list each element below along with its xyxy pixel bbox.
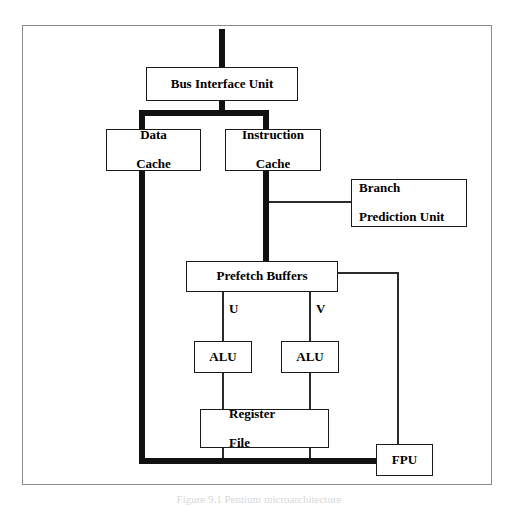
branch-prediction-unit-label-line1: Branch [359, 181, 466, 196]
figure-canvas: Bus Interface Unit Data Cache Instructio… [0, 0, 518, 506]
node-branch-prediction-unit[interactable]: Branch Prediction Unit [351, 179, 467, 227]
pipe-label-u: U [229, 301, 238, 317]
instruction-cache-label-line2: Cache [226, 157, 320, 172]
bus-top-stub [219, 29, 225, 71]
node-instruction-cache[interactable]: Instruction Cache [225, 129, 321, 171]
figure-frame: Bus Interface Unit Data Cache Instructio… [22, 25, 492, 485]
node-alu-v[interactable]: ALU [281, 341, 339, 373]
register-file-label-line2: File [229, 436, 328, 451]
wire-prefetch-to-fpu-vertical [397, 272, 399, 444]
bus-bottom-horizontal [139, 458, 379, 464]
wire-branch-prediction [267, 201, 351, 203]
bus-icache-to-prefetch [263, 170, 269, 262]
node-bus-interface-unit[interactable]: Bus Interface Unit [146, 67, 298, 101]
bus-dcache-left-vertical [139, 170, 145, 464]
node-alu-u[interactable]: ALU [194, 341, 252, 373]
register-file-label-line1: Register [229, 407, 328, 422]
instruction-cache-label-line1: Instruction [226, 128, 320, 143]
figure-caption: Figure 9.1 Pentium microarchitecture [0, 493, 518, 505]
wire-alu-u-to-register-file [222, 373, 224, 409]
bus-cache-split-horizontal [139, 110, 269, 116]
node-fpu[interactable]: FPU [376, 444, 433, 476]
node-data-cache[interactable]: Data Cache [106, 129, 201, 171]
node-register-file[interactable]: Register File [200, 409, 329, 448]
fpu-label: FPU [377, 453, 432, 468]
alu-v-label: ALU [282, 350, 338, 365]
branch-prediction-unit-label-line2: Prediction Unit [359, 210, 466, 225]
alu-u-label: ALU [195, 350, 251, 365]
data-cache-label-line2: Cache [107, 157, 200, 172]
wire-prefetch-to-fpu-horizontal [337, 272, 399, 274]
wire-prefetch-to-alu-v [309, 292, 311, 341]
node-prefetch-buffers[interactable]: Prefetch Buffers [186, 261, 338, 292]
bus-interface-unit-label: Bus Interface Unit [147, 77, 297, 92]
pipe-label-v: V [316, 301, 325, 317]
data-cache-label-line1: Data [107, 128, 200, 143]
wire-prefetch-to-alu-u [222, 292, 224, 341]
prefetch-buffers-label: Prefetch Buffers [187, 269, 337, 284]
wire-alu-v-to-register-file [309, 373, 311, 409]
